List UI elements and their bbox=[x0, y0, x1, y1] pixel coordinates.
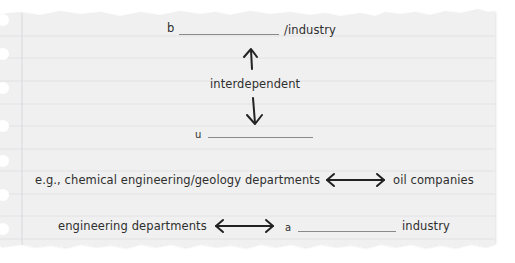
second-left-label: engineering departments bbox=[58, 219, 207, 233]
example-right-label: oil companies bbox=[393, 173, 474, 187]
paper-sheet bbox=[0, 9, 495, 247]
example-left-label: e.g., chemical engineering/geology depar… bbox=[35, 173, 320, 187]
top-suffix-label: /industry bbox=[284, 23, 336, 37]
fill-in-blank-u[interactable] bbox=[208, 137, 313, 138]
fill-in-blank-a[interactable] bbox=[298, 231, 396, 232]
blank-prefix-u: u bbox=[195, 129, 201, 140]
fill-in-blank-b[interactable] bbox=[179, 34, 279, 35]
blank-prefix-a: a bbox=[285, 222, 291, 233]
second-suffix-label: industry bbox=[402, 219, 450, 233]
relation-label: interdependent bbox=[210, 77, 300, 91]
blank-prefix-b: b bbox=[167, 21, 174, 35]
